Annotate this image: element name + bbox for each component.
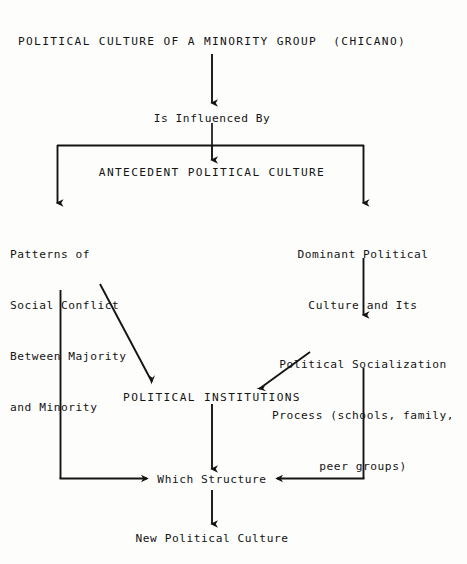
patterns-line-1: Patterns of: [10, 246, 127, 263]
dominant-line-2: Culture and Its: [297, 297, 428, 314]
socialization-line-1: Political Socialization: [272, 356, 454, 373]
node-dominant-political-culture: Dominant Political Culture and Its: [297, 212, 428, 331]
patterns-line-4: and Minority: [10, 399, 127, 416]
node-is-influenced-by: Is Influenced By: [154, 110, 271, 127]
node-new-political-culture: New Political Culture: [136, 530, 289, 547]
patterns-line-2: Social Conflict: [10, 297, 127, 314]
node-political-culture-minority-group: POLITICAL CULTURE OF A MINORITY GROUP (C…: [18, 33, 406, 50]
socialization-line-3: peer groups): [272, 458, 454, 475]
node-political-socialization-process: Political Socialization Process (schools…: [272, 322, 454, 492]
node-which-structure: Which Structure: [157, 471, 266, 488]
node-political-institutions: POLITICAL INSTITUTIONS: [123, 389, 301, 406]
patterns-line-3: Between Majority: [10, 348, 127, 365]
dominant-line-1: Dominant Political: [297, 246, 428, 263]
node-antecedent-political-culture: ANTECEDENT POLITICAL CULTURE: [99, 164, 325, 181]
node-patterns-of-social-conflict: Patterns of Social Conflict Between Majo…: [10, 212, 127, 433]
socialization-line-2: Process (schools, family,: [272, 407, 454, 424]
